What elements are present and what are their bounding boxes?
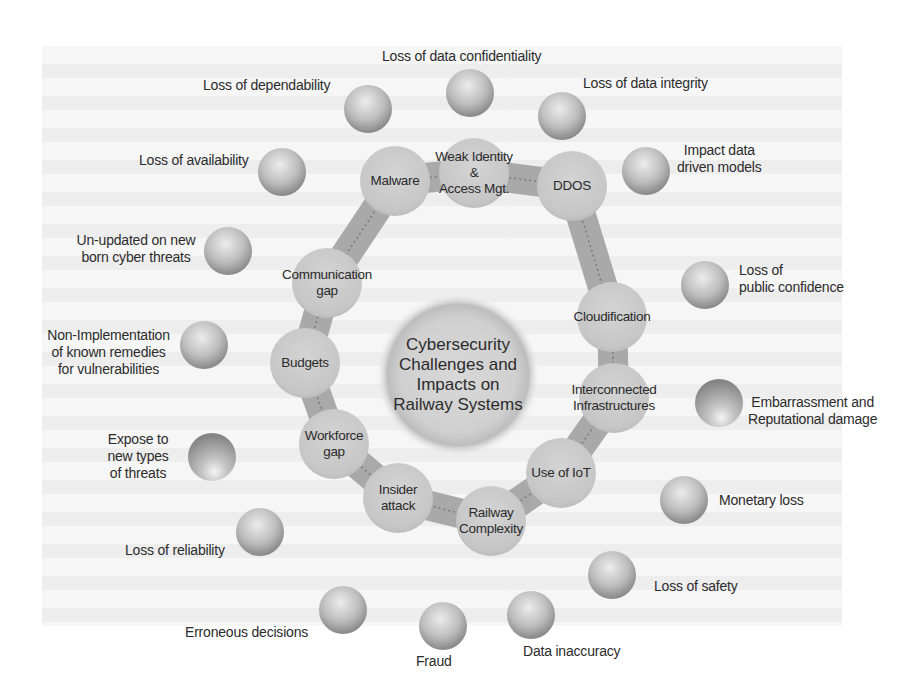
center-title-line: Railway Systems [393,395,522,415]
impact-data-inaccuracy: Data inaccuracy [523,643,620,660]
node-label: attack [379,498,417,514]
node-label: Workforce [305,428,364,444]
impact-label: Loss of data confidentiality [382,48,541,65]
impact-label: of threats [103,465,173,482]
center-title-line: Challenges and [393,355,522,375]
challenge-workforce-gap: Workforce gap [305,428,364,460]
node-label: & [435,165,513,181]
impact-embarrassment: Embarrassment and Reputational damage [748,394,877,428]
challenge-budgets: Budgets [281,355,328,371]
impact-label: Embarrassment and [748,394,877,411]
challenge-interconnected: Interconnected Infrastructures [571,382,656,414]
impact-loss-safety: Loss of safety [654,578,738,595]
impact-fraud: Fraud [416,653,452,670]
impact-loss-integrity: Loss of data integrity [583,75,708,92]
impact-label: of known remedies [41,344,176,361]
impact-monetary-loss: Monetary loss [719,492,804,509]
node-label: gap [305,444,364,460]
node-label: Budgets [281,355,328,371]
node-label: DDOS [553,178,591,194]
node-label: Infrastructures [571,398,656,414]
node-label: Access Mgt. [435,181,513,197]
impact-loss-dependability: Loss of dependability [203,77,330,94]
node-label: gap [282,283,372,299]
node-label: Complexity [459,521,523,537]
impact-label: Expose to [103,431,173,448]
node-label: Malware [371,173,420,189]
impact-label: Loss of availability [139,152,249,169]
node-label: Cloudification [574,309,651,325]
impact-label: Un-updated on new [70,232,202,249]
impact-label: Loss of data integrity [583,75,708,92]
impact-erroneous-decisions: Erroneous decisions [185,624,308,641]
impact-label: Loss of dependability [203,77,330,94]
impact-label: Non-Implementation [41,327,176,344]
impact-label: Erroneous decisions [185,624,308,641]
center-title: Cybersecurity Challenges and Impacts on … [393,335,522,415]
node-label: Use of IoT [531,465,590,481]
impact-label: Loss of [739,262,844,279]
challenge-communication-gap: Communication gap [282,267,372,299]
impact-loss-availability: Loss of availability [139,152,249,169]
node-label: Insider [379,482,417,498]
impact-label: for vulnerabilities [41,361,176,378]
impact-label: Reputational damage [748,411,877,428]
center-title-line: Impacts on [393,375,522,395]
impact-label: born cyber threats [70,249,202,266]
node-label: Interconnected [571,382,656,398]
impact-loss-public-confidence: Loss of public confidence [739,262,844,296]
impact-label: Impact data [677,142,762,159]
impact-label: new types [103,448,173,465]
impact-label: Monetary loss [719,492,804,509]
challenge-railway-complexity: Railway Complexity [459,505,523,537]
impact-label: public confidence [739,279,844,296]
challenge-cloudification: Cloudification [574,309,651,325]
impact-un-updated: Un-updated on new born cyber threats [70,232,202,266]
challenge-malware: Malware [371,173,420,189]
impact-loss-confidentiality: Loss of data confidentiality [382,48,541,65]
challenge-ddos: DDOS [553,178,591,194]
impact-loss-reliability: Loss of reliability [125,542,225,559]
impact-label: driven models [677,159,762,176]
node-label: Railway [459,505,523,521]
impact-expose-threats: Expose to new types of threats [103,431,173,482]
challenge-weak-identity: Weak Identity & Access Mgt. [435,149,513,197]
challenge-insider-attack: Insider attack [379,482,417,514]
impact-data-driven-models: Impact data driven models [677,142,762,176]
impact-label: Data inaccuracy [523,643,620,660]
node-label: Weak Identity [435,149,513,165]
impact-label: Fraud [416,653,452,670]
impact-label: Loss of safety [654,578,738,595]
node-label: Communication [282,267,372,283]
impact-non-implementation: Non-Implementation of known remedies for… [41,327,176,378]
impact-label: Loss of reliability [125,542,225,559]
challenge-iot: Use of IoT [531,465,590,481]
center-title-line: Cybersecurity [393,335,522,355]
